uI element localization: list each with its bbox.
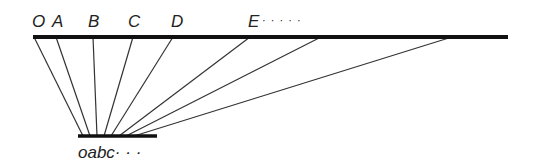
projection-diagram: OABCDE · · · · · oabc· · · (0, 0, 537, 166)
projection-line (34, 37, 83, 136)
top-ellipsis: · · · · · (262, 14, 302, 26)
bottom-point-labels: oabc· · · (78, 143, 141, 162)
projection-line (93, 37, 97, 136)
point-label-D: D (171, 12, 183, 31)
projection-lines (34, 37, 452, 136)
top-point-labels: OABCDE (32, 12, 260, 31)
projection-line (104, 37, 133, 136)
point-label-E: E (248, 12, 260, 31)
projection-line (111, 37, 173, 136)
projection-line (119, 37, 250, 136)
point-label-A: A (51, 12, 63, 31)
projection-line (56, 37, 90, 136)
point-label-O: O (32, 12, 45, 31)
point-label-B: B (88, 12, 99, 31)
point-label-C: C (128, 12, 141, 31)
